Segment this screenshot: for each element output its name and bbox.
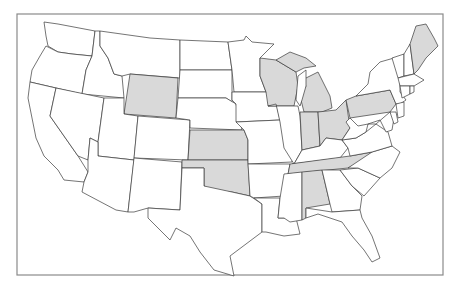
state-colorado[interactable]: Colorado bbox=[134, 116, 190, 160]
state-kansas[interactable]: Kansas bbox=[188, 130, 248, 160]
state-north-dakota[interactable]: North Dakota bbox=[180, 40, 232, 70]
state-south-dakota[interactable]: South Dakota bbox=[178, 70, 232, 102]
state-wyoming[interactable]: Wyoming bbox=[124, 74, 178, 118]
state-indiana[interactable]: Indiana bbox=[300, 112, 320, 150]
us-map: WashingtonOregonCaliforniaIdahoNevadaMon… bbox=[0, 0, 459, 289]
state-new-mexico[interactable]: New Mexico bbox=[128, 158, 182, 212]
